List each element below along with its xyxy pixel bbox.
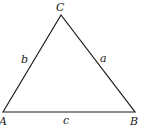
triangle-diagram: C A B b a c	[0, 0, 151, 136]
side-label-a: a	[100, 52, 107, 65]
side-label-b: b	[21, 53, 28, 66]
vertex-label-a: A	[0, 115, 7, 128]
vertex-label-c: C	[56, 1, 65, 14]
side-label-c: c	[63, 114, 69, 127]
vertex-label-b: B	[129, 115, 138, 128]
